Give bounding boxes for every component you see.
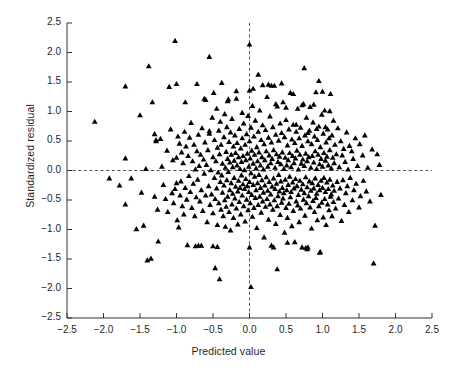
y-tick-label: 2.5 <box>31 16 61 27</box>
x-tick-label: −2.0 <box>84 324 124 335</box>
scatter-plot-figure: 2.52.01.51.00.50.0−0.5−1.0−1.5−2.0−2.5 −… <box>0 0 457 370</box>
y-tick-label: −2.0 <box>31 282 61 293</box>
y-tick-label: −1.5 <box>31 252 61 263</box>
x-tick-label: −2.5 <box>47 324 87 335</box>
y-tick-label: −2.5 <box>31 311 61 322</box>
x-axis-label: Predicted value <box>0 345 457 357</box>
x-tick-label: 0.5 <box>266 324 306 335</box>
data-points-layer <box>92 38 384 289</box>
x-tick-label: −0.5 <box>193 324 233 335</box>
x-tick-label: −1.5 <box>120 324 160 335</box>
x-tick-label: −1.0 <box>157 324 197 335</box>
x-tick-label: 2.5 <box>412 324 452 335</box>
plot-canvas <box>0 0 457 370</box>
y-tick-label: 2.0 <box>31 46 61 57</box>
x-tick-label: 1.0 <box>303 324 343 335</box>
x-tick-label: 0.0 <box>230 324 270 335</box>
reference-lines <box>67 23 432 318</box>
x-tick-label: 2.0 <box>376 324 416 335</box>
y-axis-label: Standardized residual <box>24 66 36 246</box>
x-tick-label: 1.5 <box>339 324 379 335</box>
